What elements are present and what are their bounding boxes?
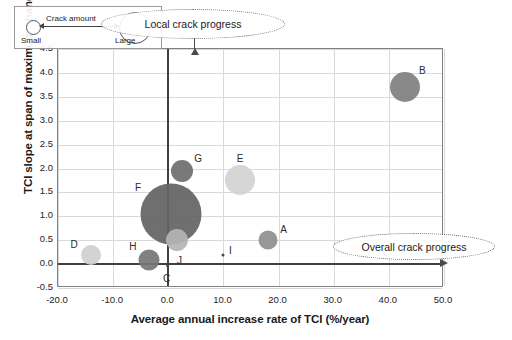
y-tick-label: 4.0 xyxy=(23,66,53,77)
legend-arrow-left-icon xyxy=(39,23,44,29)
x-axis-title: Average annual increase rate of TCI (%/y… xyxy=(57,313,443,325)
callout-overall-arrow-head-icon xyxy=(440,259,448,267)
data-bubble-g[interactable] xyxy=(171,160,193,182)
gridline-vertical xyxy=(334,49,335,286)
gridline-horizontal xyxy=(58,216,442,217)
x-tick-label: 40.0 xyxy=(365,294,411,305)
data-bubble-i[interactable] xyxy=(222,253,225,256)
gridline-vertical xyxy=(113,49,114,286)
zero-axis-vertical xyxy=(167,49,169,286)
gridline-horizontal xyxy=(58,288,442,289)
data-point-label-b: B xyxy=(419,65,426,76)
gridline-horizontal xyxy=(58,97,442,98)
y-tick-label: 2.0 xyxy=(23,162,53,173)
x-tick-label: 30.0 xyxy=(310,294,356,305)
callout-local-arrow-head-icon xyxy=(191,48,199,55)
y-tick-label: -0.5 xyxy=(23,281,53,292)
data-point-label-h: H xyxy=(129,241,136,252)
gridline-horizontal xyxy=(58,192,442,193)
y-tick-label: 0.5 xyxy=(23,233,53,244)
gridline-horizontal xyxy=(58,49,442,50)
gridline-horizontal xyxy=(58,73,442,74)
y-tick-label: 0.0 xyxy=(23,257,53,268)
x-tick-label: -10.0 xyxy=(89,294,135,305)
data-bubble-c[interactable] xyxy=(166,265,168,267)
gridline-vertical xyxy=(223,49,224,286)
x-tick-label: 50.0 xyxy=(420,294,466,305)
gridline-horizontal xyxy=(58,121,442,122)
data-bubble-b[interactable] xyxy=(390,72,420,102)
legend-small-label: Small xyxy=(21,36,41,45)
callout-overall-crack-progress: Overall crack progress xyxy=(333,233,495,260)
x-tick-label: 10.0 xyxy=(199,294,245,305)
y-tick-label: 1.5 xyxy=(23,185,53,196)
y-tick-label: 1.0 xyxy=(23,209,53,220)
data-point-label-f: F xyxy=(135,181,141,192)
data-point-label-g: G xyxy=(194,152,202,163)
y-tick-label: 2.5 xyxy=(23,138,53,149)
data-bubble-a[interactable] xyxy=(258,231,277,250)
legend-large-label: Large xyxy=(115,36,135,45)
data-bubble-d[interactable] xyxy=(81,245,101,265)
data-point-label-e: E xyxy=(237,153,244,164)
x-tick-label: 0.0 xyxy=(144,294,190,305)
data-point-label-d: D xyxy=(70,238,77,249)
data-bubble-j[interactable] xyxy=(166,229,188,251)
y-tick-label: 3.0 xyxy=(23,114,53,125)
x-tick-label: -20.0 xyxy=(34,294,80,305)
data-point-label-i: I xyxy=(229,244,232,255)
data-bubble-e[interactable] xyxy=(225,165,255,195)
bubble-chart-figure: TCI slope at span of maximum change amou… xyxy=(0,0,512,340)
x-tick-label: 20.0 xyxy=(255,294,301,305)
data-point-label-a: A xyxy=(280,224,287,235)
gridline-vertical xyxy=(279,49,280,286)
data-bubble-h[interactable] xyxy=(138,250,159,271)
data-point-label-c: C xyxy=(163,273,170,284)
gridline-horizontal xyxy=(58,145,442,146)
zero-axis-horizontal xyxy=(58,263,442,265)
y-axis-tick-labels: 4.54.03.53.02.52.01.51.00.50.0-0.5 xyxy=(20,0,53,340)
legend-title: Crack amount xyxy=(45,14,97,23)
gridline-vertical xyxy=(58,49,59,286)
y-tick-label: 3.5 xyxy=(23,90,53,101)
data-point-label-j: J xyxy=(177,255,182,266)
callout-local-crack-progress: Local crack progress xyxy=(101,9,285,39)
